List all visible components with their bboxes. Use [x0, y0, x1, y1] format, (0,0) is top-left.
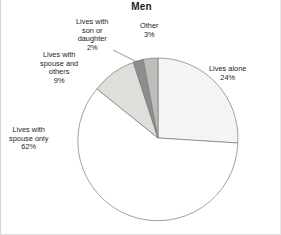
leader-line-son-or-daughter	[113, 50, 137, 62]
slice-label-other-pct: 3%	[140, 31, 158, 40]
slice-label-lives-with-son-or-daughter: Lives with son or daughter 2%	[76, 18, 108, 52]
pie-chart-figure: Men Lives alone 24% Lives with spouse on…	[0, 0, 281, 235]
slice-label-lives-alone-line1: Lives alone	[209, 64, 246, 73]
slice-label-spouse-others-pct: 9%	[40, 77, 78, 86]
slice-label-son-daughter-pct: 2%	[76, 44, 108, 53]
slice-label-spouse-others-line3: others	[49, 67, 70, 76]
slice-label-spouse-only-pct: 62%	[9, 143, 48, 152]
slice-label-lives-alone: Lives alone 24%	[209, 65, 246, 82]
slice-label-lives-with-spouse-and-others: Lives with spouse and others 9%	[40, 51, 78, 85]
slice-label-lives-with-spouse-only: Lives with spouse only 62%	[9, 126, 48, 152]
slice-label-son-daughter-line3: daughter	[78, 34, 107, 43]
slice-label-other-line1: Other	[140, 21, 158, 30]
slice-label-lives-alone-pct: 24%	[209, 74, 246, 83]
slice-label-other: Other 3%	[140, 22, 158, 39]
